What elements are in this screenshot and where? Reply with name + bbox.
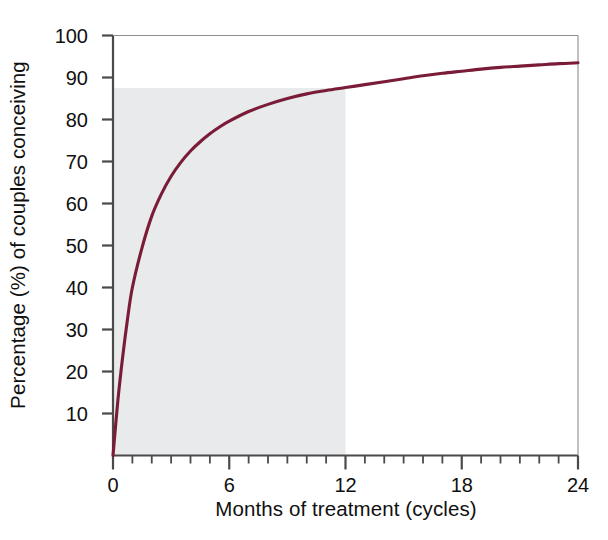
plot-area <box>0 0 608 540</box>
shaded-region-rect <box>113 88 346 456</box>
x-axis-ticks <box>113 456 578 470</box>
x-axis-title: Months of treatment (cycles) <box>113 497 579 521</box>
y-axis-ticks <box>102 36 113 414</box>
shaded-region <box>113 88 346 456</box>
chart-figure: Percentage (%) of couples conceiving 102… <box>0 0 608 540</box>
